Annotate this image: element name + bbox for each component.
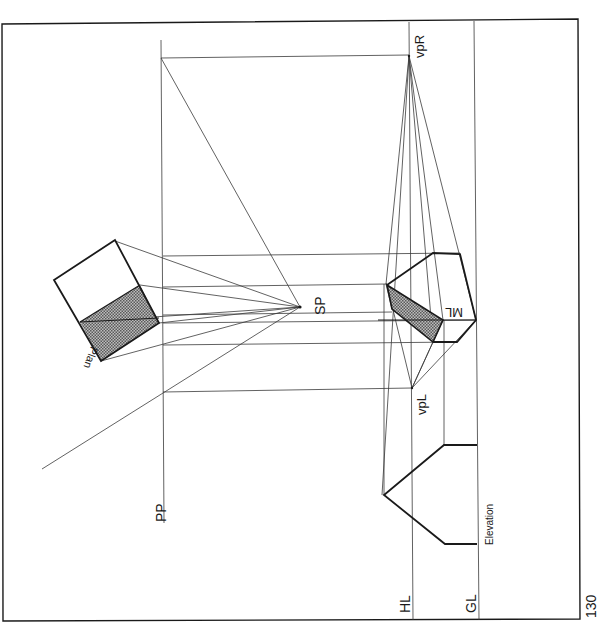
perspective-construction-drawing: PP SP HL GL vpR vpL ML Plan Elevation 13…	[0, 0, 599, 632]
label-plan: Plan	[82, 345, 101, 370]
label-vpr: vpR	[412, 35, 427, 58]
label-ml: ML	[445, 305, 463, 320]
label-hl: HL	[397, 595, 413, 613]
vpL-marker	[411, 387, 413, 389]
label-sp: SP	[312, 296, 328, 315]
label-gl: GL	[463, 594, 479, 613]
elevation-outline	[384, 445, 477, 544]
page-number: 130	[583, 594, 599, 618]
vpR-marker	[408, 55, 410, 57]
station-point-marker	[298, 305, 301, 308]
label-pp: PP	[153, 503, 169, 522]
perspective-shaded-face	[387, 285, 443, 342]
label-elevation: Elevation	[484, 504, 495, 545]
picture-plane-line	[161, 40, 164, 523]
label-vpl: vpL	[414, 394, 429, 415]
plan-view	[54, 240, 159, 361]
